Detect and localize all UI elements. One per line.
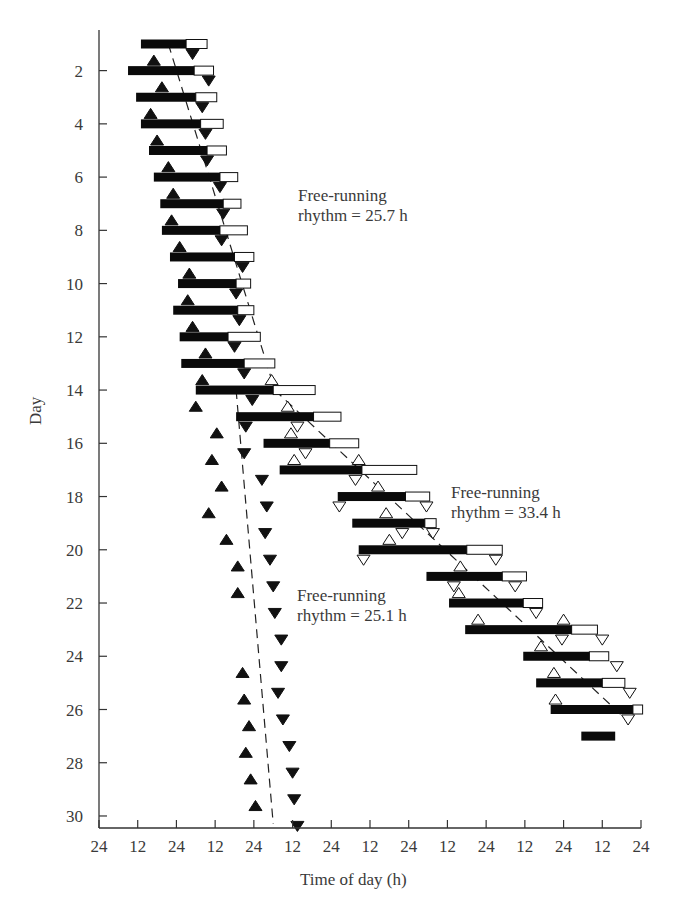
onset-marker-filled-icon: [144, 108, 157, 118]
x-tick-label: 12: [594, 837, 611, 856]
onset-marker-filled-icon: [183, 268, 196, 278]
rest-bar: [238, 306, 254, 315]
offset-marker-open-icon: [299, 449, 312, 459]
rest-bar: [589, 652, 608, 661]
activity-bar: [162, 226, 220, 235]
actogram-chart: 2412241224122412241224122412242468101214…: [0, 0, 677, 913]
x-tick-label: 24: [400, 837, 418, 856]
activity-bar: [338, 492, 406, 501]
x-tick-label: 12: [284, 837, 301, 856]
rest-bar: [201, 119, 224, 128]
x-tick-label: 12: [207, 837, 224, 856]
annotation-line2: rhythm = 25.1 h: [297, 606, 407, 626]
onset-marker-open-icon: [288, 454, 301, 464]
y-tick-label: 10: [66, 275, 83, 294]
activity-bar: [465, 625, 571, 634]
offset-marker-filled-icon: [286, 768, 299, 778]
x-tick-label: 24: [633, 837, 651, 856]
onset-marker-open-icon: [557, 614, 570, 624]
onset-marker-filled-icon: [181, 295, 194, 305]
x-tick-label: 12: [439, 837, 456, 856]
activity-bar: [359, 545, 467, 554]
rest-bar: [362, 465, 417, 474]
onset-marker-filled-icon: [199, 348, 212, 358]
y-tick-label: 30: [66, 807, 83, 826]
onset-marker-filled-icon: [231, 561, 244, 571]
offset-marker-filled-icon: [217, 209, 230, 219]
rest-bar: [467, 545, 502, 554]
offset-marker-open-icon: [555, 635, 568, 645]
rest-bar: [633, 705, 643, 714]
offset-marker-filled-icon: [275, 662, 288, 672]
onset-marker-filled-icon: [205, 454, 218, 464]
activity-bar: [141, 40, 186, 49]
onset-marker-filled-icon: [173, 241, 186, 251]
onset-marker-filled-icon: [155, 82, 168, 92]
rest-bar: [223, 199, 241, 208]
offset-marker-open-icon: [349, 475, 362, 485]
offset-marker-open-icon: [596, 635, 609, 645]
offset-marker-filled-icon: [201, 156, 214, 166]
annotation-line1: Free-running: [451, 483, 561, 503]
x-tick-label: 24: [555, 837, 573, 856]
rest-bar: [196, 93, 217, 102]
onset-marker-filled-icon: [202, 508, 215, 518]
markers: [144, 49, 636, 831]
y-tick-label: 16: [66, 434, 83, 453]
x-tick-label: 24: [323, 837, 341, 856]
offset-marker-filled-icon: [246, 395, 259, 405]
activity-bar: [581, 732, 615, 741]
offset-marker-open-icon: [489, 555, 502, 565]
rest-bar: [236, 279, 251, 288]
onset-marker-filled-icon: [215, 481, 228, 491]
rest-bar: [602, 678, 625, 687]
y-tick-label: 6: [75, 168, 84, 187]
offset-marker-open-icon: [610, 662, 623, 672]
onset-marker-open-icon: [454, 561, 467, 571]
onset-marker-filled-icon: [231, 588, 244, 598]
onset-marker-filled-icon: [186, 321, 199, 331]
onset-marker-filled-icon: [249, 800, 262, 810]
offset-marker-filled-icon: [199, 129, 212, 139]
annotation-line1: Free-running: [298, 186, 408, 206]
x-tick-label: 12: [129, 837, 146, 856]
activity-bar: [136, 93, 196, 102]
offset-marker-open-icon: [420, 502, 433, 512]
activity-bar: [352, 519, 425, 528]
rest-bar: [228, 332, 260, 341]
rest-bar: [523, 599, 542, 608]
offset-marker-open-icon: [530, 608, 543, 618]
rest-bar: [314, 412, 341, 421]
activity-bar: [264, 439, 330, 448]
offset-marker-filled-icon: [186, 49, 199, 59]
y-tick-label: 26: [66, 701, 83, 720]
onset-marker-filled-icon: [162, 162, 175, 172]
offset-marker-open-icon: [333, 502, 346, 512]
offset-marker-open-icon: [396, 529, 409, 539]
x-tick-label: 24: [245, 837, 263, 856]
onset-marker-filled-icon: [236, 667, 249, 677]
onset-marker-filled-icon: [165, 215, 178, 225]
activity-bar: [128, 66, 194, 75]
rest-bar: [244, 359, 275, 368]
offset-marker-filled-icon: [276, 715, 289, 725]
annotation-line2: rhythm = 33.4 h: [451, 503, 561, 523]
offset-marker-filled-icon: [228, 342, 241, 352]
offset-marker-filled-icon: [196, 103, 209, 113]
y-tick-label: 18: [66, 488, 83, 507]
offset-marker-filled-icon: [275, 635, 288, 645]
onset-marker-filled-icon: [196, 375, 209, 385]
offset-marker-open-icon: [509, 582, 522, 592]
offset-marker-filled-icon: [202, 76, 215, 86]
offset-marker-filled-icon: [213, 183, 226, 193]
offset-marker-filled-icon: [238, 449, 251, 459]
offset-marker-filled-icon: [236, 262, 249, 272]
annotation-25-7: Free-running rhythm = 25.7 h: [298, 186, 408, 226]
onset-marker-filled-icon: [147, 55, 160, 65]
offset-marker-filled-icon: [239, 422, 252, 432]
y-tick-label: 20: [66, 541, 83, 560]
onset-marker-open-icon: [549, 694, 562, 704]
onset-marker-filled-icon: [238, 694, 251, 704]
rest-bar: [207, 146, 226, 155]
activity-bar: [160, 199, 223, 208]
